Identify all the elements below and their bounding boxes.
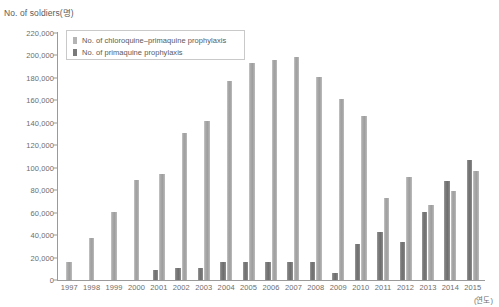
bar-group xyxy=(237,33,259,280)
x-axis-tick-label: 2013 xyxy=(417,283,439,297)
bar-groups xyxy=(58,33,484,280)
legend-item-label: No. of chloroquine–primaquine prophylaxi… xyxy=(82,36,226,45)
x-axis-tick-label: 2012 xyxy=(394,283,416,297)
bar xyxy=(182,133,188,280)
bar xyxy=(451,191,457,280)
x-axis-tick-label: 2002 xyxy=(170,283,192,297)
x-axis-line xyxy=(57,280,485,281)
bar xyxy=(428,205,434,280)
bar xyxy=(153,270,159,280)
bar xyxy=(316,77,322,280)
bar xyxy=(89,238,95,280)
bar xyxy=(159,174,165,280)
y-axis-tick-label: 200,000 xyxy=(26,51,54,60)
bar xyxy=(243,262,249,280)
legend-item-label: No. of primaquine prophylaxis xyxy=(82,48,183,57)
y-axis-tick-label: 160,000 xyxy=(26,96,54,105)
bar xyxy=(332,273,338,280)
bar-group xyxy=(462,33,484,280)
legend-swatch-icon xyxy=(73,49,77,56)
bar xyxy=(310,262,316,280)
bar-group xyxy=(215,33,237,280)
bar xyxy=(265,262,271,280)
x-axis-tick-label: 2004 xyxy=(215,283,237,297)
bar-group xyxy=(282,33,304,280)
bar xyxy=(384,198,390,280)
y-axis-tick-label: 40,000 xyxy=(30,231,54,240)
legend-item: No. of primaquine prophylaxis xyxy=(73,47,238,58)
x-axis-tick-label: 2009 xyxy=(327,283,349,297)
x-axis-tick-label: 2011 xyxy=(372,283,394,297)
legend-swatch-icon xyxy=(73,37,77,44)
x-axis-tick-labels: 1997199819992000200120022003200420052006… xyxy=(58,283,484,297)
bar-group xyxy=(372,33,394,280)
y-axis-tick-label: 180,000 xyxy=(26,73,54,82)
bar xyxy=(377,232,383,280)
bar-group xyxy=(327,33,349,280)
bar-group xyxy=(58,33,80,280)
bar xyxy=(422,212,428,280)
x-axis-tick-label: 2007 xyxy=(282,283,304,297)
y-axis-tick-labels: 020,00040,00060,00080,000100,000120,0001… xyxy=(0,0,54,307)
bar xyxy=(444,181,450,280)
bar xyxy=(294,57,300,280)
y-axis-tick-label: 20,000 xyxy=(30,253,54,262)
bar-group xyxy=(260,33,282,280)
bar-group xyxy=(305,33,327,280)
x-axis-tick-label: 2014 xyxy=(439,283,461,297)
x-axis-tick-label: 1997 xyxy=(58,283,80,297)
bar-chart: No. of soldiers(명) 020,00040,00060,00080… xyxy=(0,0,499,307)
bar-group xyxy=(349,33,371,280)
y-axis-tick-label: 100,000 xyxy=(26,163,54,172)
x-axis-tick-label: 2008 xyxy=(305,283,327,297)
bar xyxy=(227,81,233,280)
bar-group xyxy=(439,33,461,280)
bar xyxy=(339,99,345,280)
bar xyxy=(287,262,293,280)
bar-group xyxy=(103,33,125,280)
plot-area xyxy=(58,33,484,280)
bar xyxy=(467,160,473,280)
y-axis-tick-label: 80,000 xyxy=(30,186,54,195)
chart-legend: No. of chloroquine–primaquine prophylaxi… xyxy=(66,30,245,60)
y-axis-tick-label: 120,000 xyxy=(26,141,54,150)
bar xyxy=(198,268,204,280)
x-axis-tick-label: 2005 xyxy=(237,283,259,297)
y-axis-tick-label: 60,000 xyxy=(30,208,54,217)
bar-group xyxy=(125,33,147,280)
bar xyxy=(204,121,210,280)
bar-group xyxy=(193,33,215,280)
bar-group xyxy=(148,33,170,280)
legend-item: No. of chloroquine–primaquine prophylaxi… xyxy=(73,35,238,46)
bar xyxy=(272,60,278,280)
y-axis-tick-label: 140,000 xyxy=(26,118,54,127)
bar xyxy=(134,180,140,280)
x-axis-tick-label: 2000 xyxy=(125,283,147,297)
x-axis-unit-label: (연도) xyxy=(474,294,493,305)
bar xyxy=(473,171,479,280)
bar-group xyxy=(417,33,439,280)
x-axis-tick-label: 1999 xyxy=(103,283,125,297)
bar xyxy=(249,63,255,280)
bar-group xyxy=(394,33,416,280)
x-axis-tick-label: 2010 xyxy=(349,283,371,297)
bar xyxy=(111,212,117,280)
bar xyxy=(355,244,361,280)
x-axis-tick-label: 2003 xyxy=(193,283,215,297)
bar xyxy=(220,262,226,280)
x-axis-tick-label: 2001 xyxy=(148,283,170,297)
bar-group xyxy=(80,33,102,280)
bar xyxy=(400,242,406,280)
bar xyxy=(361,116,367,280)
x-axis-tick-label: 2006 xyxy=(260,283,282,297)
bar xyxy=(406,177,412,280)
bar-group xyxy=(170,33,192,280)
x-axis-tick-label: 1998 xyxy=(80,283,102,297)
bar xyxy=(175,268,181,280)
y-axis-tick-label: 220,000 xyxy=(26,29,54,38)
bar xyxy=(66,262,72,280)
